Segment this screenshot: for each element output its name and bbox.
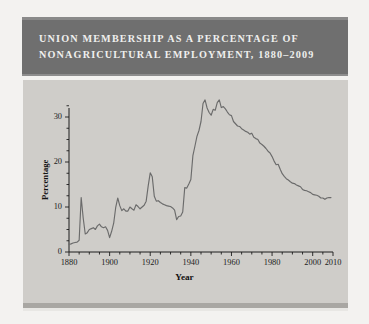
y-tick-label: 0: [0, 247, 62, 256]
chart-title-banner: UNION MEMBERSHIP AS A PERCENTAGE OF NONA…: [22, 17, 348, 76]
y-axis-title: Percentage: [40, 160, 50, 200]
x-tick-label: 2010: [319, 258, 347, 267]
x-tick-label: 1880: [55, 258, 83, 267]
figure-container: UNION MEMBERSHIP AS A PERCENTAGE OF NONA…: [0, 0, 369, 324]
y-tick-label: 30: [0, 112, 62, 121]
y-tick-label: 10: [0, 202, 62, 211]
x-axis-title: Year: [0, 272, 369, 282]
x-tick-label: 1900: [96, 258, 124, 267]
page-title: UNION MEMBERSHIP AS A PERCENTAGE OF NONA…: [39, 31, 334, 63]
x-tick-label: 1980: [258, 258, 286, 267]
x-tick-label: 1920: [136, 258, 164, 267]
x-tick-label: 1960: [217, 258, 245, 267]
panel-bottom-highlight-bar: [23, 308, 348, 311]
x-tick-label: 1940: [177, 258, 205, 267]
y-tick-label: 20: [0, 157, 62, 166]
